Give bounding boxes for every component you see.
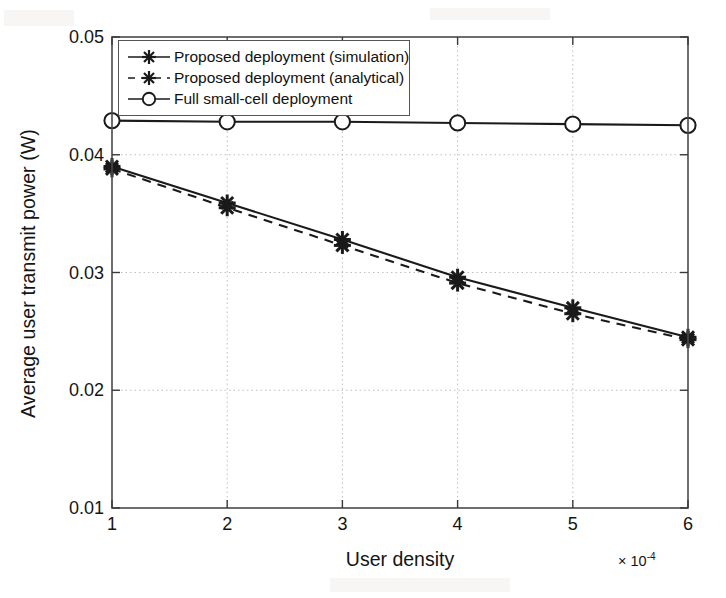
legend-item-label: Proposed deployment (analytical) [174,69,404,87]
legend-item-label: Proposed deployment (simulation) [174,48,409,66]
x-tick-label: 1 [107,514,117,535]
series-0 [104,158,697,346]
x-axis-multiplier-exponent: -4 [647,551,656,562]
star-marker-icon [334,237,351,254]
y-tick-label: 0.02 [69,380,104,401]
series-1 [104,160,697,348]
x-axis-multiplier: × 10-4 [618,551,656,569]
circle-marker-icon [220,114,235,129]
star-marker-icon [449,275,466,292]
x-tick-label: 3 [337,514,347,535]
y-tick-label: 0.01 [69,498,104,519]
x-tick-label: 2 [222,514,232,535]
star-marker-icon [126,48,172,66]
plot-area: 0.010.020.030.040.05 123456 Proposed [112,37,688,508]
circle-marker-icon [565,117,580,132]
star-marker-icon [126,69,172,87]
star-marker-icon [219,199,236,216]
y-tick-label: 0.03 [69,262,104,283]
x-tick-label: 6 [683,514,693,535]
x-axis-label: User density [112,548,688,571]
x-tick-label: 5 [568,514,578,535]
legend-item[interactable]: Proposed deployment (simulation) [126,46,401,67]
x-axis-multiplier-base: × 10 [618,553,647,569]
circle-marker-icon [450,115,465,130]
y-tick-label: 0.04 [69,144,104,165]
circle-marker-icon [335,114,350,129]
legend-item[interactable]: Proposed deployment (analytical) [126,67,401,88]
x-tick-label: 4 [453,514,463,535]
y-tick-label: 0.05 [69,27,104,48]
legend: Proposed deployment (simulation) Propos [118,40,410,116]
star-marker-icon [564,305,581,322]
legend-item-label: Full small-cell deployment [174,90,352,108]
y-axis-label: Average user transmit power (W) [17,34,40,514]
legend-item[interactable]: Full small-cell deployment [126,88,401,109]
figure-container: Average user transmit power (W) User den… [0,0,726,598]
circle-marker-icon [126,90,172,108]
series-layer [104,113,697,348]
